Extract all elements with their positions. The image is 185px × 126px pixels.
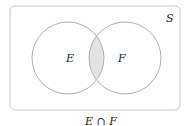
set-f-label: F (117, 52, 126, 65)
set-e-label: E (65, 52, 74, 65)
caption: E ∩ F (84, 115, 117, 126)
venn-diagram: S E F E ∩ F (0, 0, 185, 126)
universe-label: S (166, 12, 174, 25)
